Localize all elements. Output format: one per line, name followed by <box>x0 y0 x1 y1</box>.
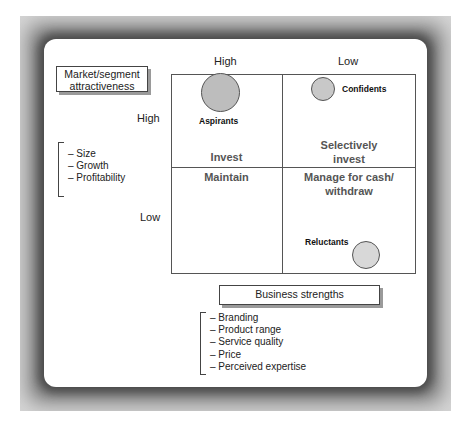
column-factors-list: – Branding – Product range – Service qua… <box>210 312 306 373</box>
aspirants-bubble <box>201 73 240 112</box>
quadrant-manage-for-cash: Manage for cash/ withdraw <box>282 170 416 198</box>
column-low-label: Low <box>338 55 358 67</box>
quadrant-selectively-invest: Selectively invest <box>282 138 416 166</box>
factor-size: – Size <box>68 148 125 160</box>
column-high-label: High <box>214 55 237 67</box>
row-factors-list: – Size – Growth – Profitability <box>68 148 125 185</box>
quadrant-maintain: Maintain <box>171 170 282 184</box>
factor-profitability: – Profitability <box>68 172 125 184</box>
column-factors-bracket <box>200 312 206 375</box>
row-high-label: High <box>137 112 160 124</box>
reluctants-label: Reluctants <box>305 237 348 247</box>
factor-service-quality: – Service quality <box>210 336 306 348</box>
business-strengths-label: Business strengths <box>219 285 380 305</box>
factor-perceived-expertise: – Perceived expertise <box>210 361 306 373</box>
confidents-label: Confidents <box>342 84 386 94</box>
row-factors-bracket <box>58 142 64 197</box>
factor-price: – Price <box>210 349 306 361</box>
factor-branding: – Branding <box>210 312 306 324</box>
aspirants-label: Aspirants <box>199 116 238 126</box>
factor-growth: – Growth <box>68 160 125 172</box>
market-attractiveness-label: Market/segment attractiveness <box>56 66 148 92</box>
confidents-bubble <box>311 77 335 101</box>
reluctants-bubble <box>352 241 380 269</box>
quadrant-invest: Invest <box>171 150 282 164</box>
factor-product-range: – Product range <box>210 324 306 336</box>
matrix-horizontal-divider <box>171 167 416 168</box>
row-low-label: Low <box>140 211 160 223</box>
